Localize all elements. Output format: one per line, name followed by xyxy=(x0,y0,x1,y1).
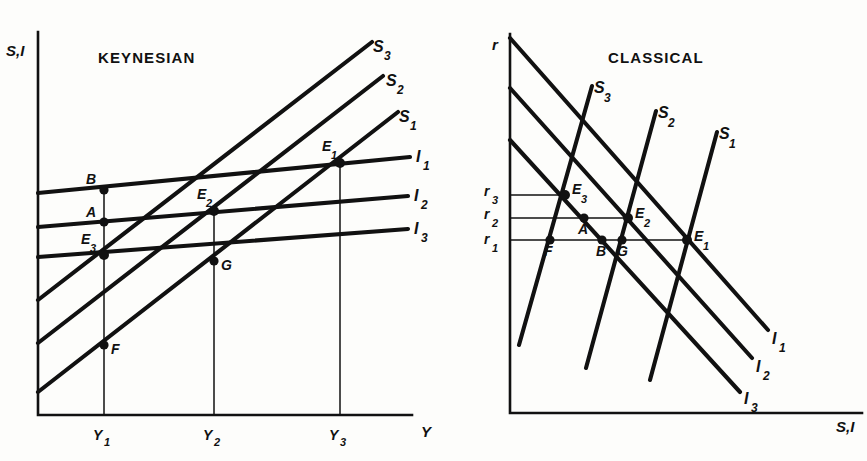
classical-label-i1-sub: 1 xyxy=(779,341,786,355)
keynesian-label-i2-base: I xyxy=(414,187,419,204)
classical-tick-r1: r 1 xyxy=(484,231,498,254)
classical-label-i3-base: I xyxy=(744,390,749,407)
keynesian-label-s1-sub: 1 xyxy=(410,119,417,133)
keynesian-title: KEYNESIAN xyxy=(98,49,195,66)
classical-label-s3: S 3 xyxy=(594,79,611,105)
classical-point-e3 xyxy=(560,190,570,200)
classical-label-i2: I 2 xyxy=(756,358,770,383)
classical-label-s2-sub: 2 xyxy=(667,116,675,130)
classical-point-label-g: G xyxy=(617,243,628,259)
keynesian-label-s3: S 3 xyxy=(373,38,391,63)
classical-label-i2-base: I xyxy=(756,358,761,375)
classical-point-label-e3: E 3 xyxy=(572,181,587,205)
classical-point-label-e2: E 2 xyxy=(635,205,650,229)
keynesian-point-b xyxy=(99,185,108,194)
classical-point-label-e1-sub: 1 xyxy=(703,240,709,252)
keynesian-tick-y3: Y 3 xyxy=(329,427,346,448)
keynesian-point-label-e1-sub: 1 xyxy=(331,149,337,161)
classical-point-label-b: B xyxy=(596,243,606,259)
keynesian-point-label-b: B xyxy=(86,171,96,187)
classical-tick-r3-sub: 3 xyxy=(492,194,498,206)
keynesian-point-label-f: F xyxy=(111,341,120,357)
keynesian-label-i2-sub: 2 xyxy=(420,198,428,212)
classical-label-i1: I 1 xyxy=(772,330,786,355)
classical-tick-r1-base: r xyxy=(484,231,491,247)
classical-tick-r2: r 2 xyxy=(484,206,498,229)
keynesian-label-s1-base: S xyxy=(399,108,410,125)
keynesian-point-a xyxy=(99,217,108,226)
classical-tick-r1-sub: 1 xyxy=(492,242,498,254)
keynesian-point-label-e2: E 2 xyxy=(197,186,212,209)
classical-axes xyxy=(510,34,862,413)
keynesian-tick-y3-base: Y xyxy=(329,427,340,443)
keynesian-tick-y2: Y 2 xyxy=(203,427,220,448)
keynesian-tick-y2-base: Y xyxy=(203,427,214,443)
keynesian-panel: KEYNESIAN S,I Y Y 1 Y 2 Y 3 S 3 xyxy=(6,32,433,448)
keynesian-point-label-e3-sub: 3 xyxy=(90,242,96,254)
classical-label-i3: I 3 xyxy=(744,390,758,415)
keynesian-point-label-e2-sub: 2 xyxy=(205,197,212,209)
classical-label-s3-sub: 3 xyxy=(604,91,611,105)
keynesian-label-i3-base: I xyxy=(414,220,419,237)
classical-tick-r2-sub: 2 xyxy=(491,217,498,229)
classical-point-label-e2-sub: 2 xyxy=(643,217,650,229)
keynesian-label-i1: I 1 xyxy=(416,148,430,173)
keynesian-tick-y3-sub: 3 xyxy=(340,436,346,448)
keynesian-label-s3-sub: 3 xyxy=(384,49,391,63)
keynesian-label-s2-base: S xyxy=(386,72,397,89)
classical-point-e2 xyxy=(623,213,633,223)
keynesian-point-label-e1: E 1 xyxy=(322,138,337,161)
keynesian-label-s2-sub: 2 xyxy=(396,83,404,97)
keynesian-point-label-a: A xyxy=(85,204,96,220)
keynesian-label-s2: S 2 xyxy=(386,72,404,97)
classical-tick-r3: r 3 xyxy=(484,183,498,206)
classical-point-label-f: F xyxy=(544,243,553,259)
keynesian-point-label-e3: E 3 xyxy=(81,231,96,254)
keynesian-label-i3-sub: 3 xyxy=(421,231,428,245)
classical-title: CLASSICAL xyxy=(608,49,704,66)
keynesian-label-s1: S 1 xyxy=(399,108,417,133)
keynesian-point-label-g: G xyxy=(221,257,232,273)
keynesian-point-e3 xyxy=(99,250,109,260)
classical-label-i2-sub: 2 xyxy=(762,369,770,383)
keynesian-label-i1-sub: 1 xyxy=(423,159,430,173)
keynesian-label-i3: I 3 xyxy=(414,220,428,245)
classical-point-e1 xyxy=(682,235,692,245)
keynesian-y-axis-label: S,I xyxy=(6,42,25,59)
classical-x-axis-label: S,I xyxy=(836,418,855,435)
classical-y-axis-label: r xyxy=(492,36,499,53)
classical-label-i1-base: I xyxy=(772,330,777,347)
classical-point-label-e3-sub: 3 xyxy=(581,193,587,205)
classical-label-s1-sub: 1 xyxy=(729,137,736,151)
keynesian-label-i2: I 2 xyxy=(414,187,428,212)
keynesian-tick-y2-sub: 2 xyxy=(213,436,220,448)
keynesian-tick-y1-base: Y xyxy=(93,427,104,443)
classical-label-i3-sub: 3 xyxy=(751,401,758,415)
economics-figure: KEYNESIAN S,I Y Y 1 Y 2 Y 3 S 3 xyxy=(0,0,867,461)
classical-tick-r2-base: r xyxy=(484,206,491,222)
keynesian-label-s3-base: S xyxy=(373,38,384,55)
classical-point-label-a: A xyxy=(577,221,588,237)
keynesian-point-f xyxy=(99,340,108,349)
keynesian-label-i1-base: I xyxy=(416,148,421,165)
classical-curve-i2 xyxy=(510,88,752,358)
keynesian-point-g xyxy=(209,256,218,265)
keynesian-tick-y1-sub: 1 xyxy=(104,436,110,448)
classical-label-s2: S 2 xyxy=(658,104,675,130)
keynesian-tick-y1: Y 1 xyxy=(93,427,110,448)
diagram-canvas: KEYNESIAN S,I Y Y 1 Y 2 Y 3 S 3 xyxy=(0,0,867,461)
classical-panel: CLASSICAL r S,I r 3 r 2 r 1 S 3 xyxy=(484,34,862,435)
keynesian-x-axis-label: Y xyxy=(421,423,433,440)
classical-tick-r3-base: r xyxy=(484,183,491,199)
classical-label-s1: S 1 xyxy=(719,125,736,151)
